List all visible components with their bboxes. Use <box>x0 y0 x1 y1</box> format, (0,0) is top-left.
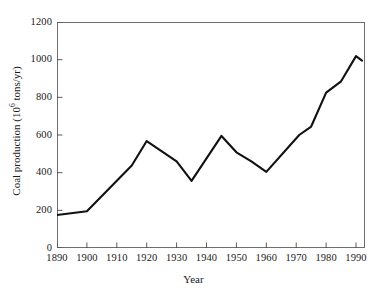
chart-page: 020040060080010001200 189019001910192019… <box>0 0 387 294</box>
y-axis-title-before: Coal production (10 <box>10 107 22 196</box>
y-axis-title-exponent: 6 <box>8 103 17 107</box>
tick-marks <box>57 22 356 248</box>
y-axis-title-after: tons/yr) <box>10 66 22 103</box>
x-axis-title: Year <box>0 273 387 285</box>
y-axis-title: Coal production (106 tons/yr) <box>10 31 22 231</box>
x-tick-label: 1990 <box>336 252 376 263</box>
coal-production-line <box>57 56 362 215</box>
plot-area <box>57 22 365 248</box>
